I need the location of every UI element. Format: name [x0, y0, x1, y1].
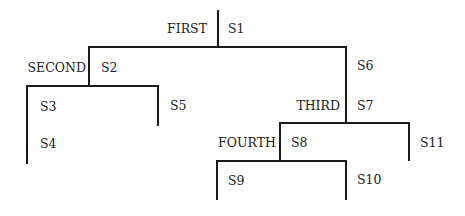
branch-label-first: FIRST — [167, 23, 207, 36]
statement-s6: S6 — [357, 60, 374, 73]
statement-s9: S9 — [228, 175, 245, 188]
statement-s5: S5 — [170, 100, 187, 113]
statement-s8: S8 — [291, 137, 308, 150]
statement-s7: S7 — [357, 100, 374, 113]
statement-s3: S3 — [40, 101, 57, 114]
branch-label-third: THIRD — [296, 100, 340, 113]
statement-s4: S4 — [40, 138, 57, 151]
statement-s2: S2 — [101, 62, 118, 75]
branch-label-fourth: FOURTH — [218, 137, 276, 150]
statement-s10: S10 — [357, 174, 381, 187]
statement-s1: S1 — [228, 23, 245, 36]
branch-label-second: SECOND — [28, 62, 86, 75]
statement-s11: S11 — [420, 137, 444, 150]
